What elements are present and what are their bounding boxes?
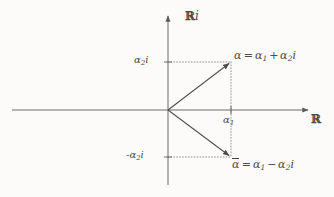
tick-label-positive-imaginary-base: α: [134, 54, 141, 65]
label-alpha-operator: +: [269, 49, 278, 62]
imaginary-axis-label-italic: i: [195, 9, 199, 23]
label-alpha-conjugate-term1-base: α: [253, 158, 260, 171]
label-alpha: α=α1+α2i: [234, 50, 296, 63]
label-alpha-term1-subscript: 1: [263, 54, 268, 63]
label-alpha-equals: =: [244, 49, 253, 62]
label-alpha-conjugate-lhs: α: [232, 159, 239, 170]
imaginary-axis-label: ℝi: [185, 10, 199, 22]
vector-alpha: [168, 64, 229, 111]
tick-label-positive-imaginary: α2i: [134, 55, 148, 67]
label-alpha-conjugate-term2-unit: i: [290, 158, 294, 171]
label-alpha-conjugate-operator: −: [267, 158, 276, 171]
label-alpha-term1-base: α: [255, 49, 262, 62]
label-alpha-lhs: α: [234, 49, 241, 62]
label-alpha-conjugate: α=α1−α2i: [232, 159, 294, 172]
tick-label-positive-imaginary-unit: i: [145, 54, 148, 65]
label-alpha-term2-base: α: [280, 49, 287, 62]
imaginary-axis-label-blackboard: ℝ: [185, 9, 195, 23]
label-alpha-term2-unit: i: [292, 49, 296, 62]
complex-plane-figure: ℝi ℝ α=α1+α2i α=α1−α2i α2i -α2i α1: [0, 0, 334, 197]
label-alpha-conjugate-equals: =: [242, 158, 251, 171]
tick-label-negative-imaginary-unit: i: [141, 149, 144, 160]
tick-label-real-base: α: [223, 114, 230, 125]
label-alpha-conjugate-term2-base: α: [278, 158, 285, 171]
tick-label-negative-imaginary: -α2i: [126, 150, 144, 162]
label-alpha-conjugate-term1-subscript: 1: [261, 163, 266, 172]
tick-label-real-subscript: 1: [230, 119, 234, 127]
tick-label-real: α1: [223, 115, 234, 127]
vector-alpha-conjugate: [168, 110, 229, 156]
real-axis-label: ℝ: [311, 113, 321, 125]
